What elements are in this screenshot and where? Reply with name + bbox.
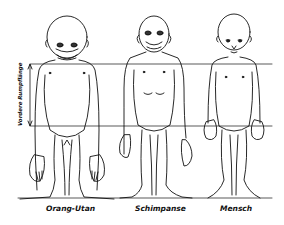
measurement-arrow xyxy=(28,64,32,126)
measure-label: Vordere Rumpflänge xyxy=(17,62,23,126)
label-schimpanse: Schimpanse xyxy=(135,204,186,213)
orang-utan-figure xyxy=(20,16,114,199)
figure-drawing xyxy=(0,0,284,225)
chimpanzee-figure xyxy=(120,16,193,198)
figure-canvas: Vordere Rumpflänge Orang-Utan Schimpanse… xyxy=(0,0,284,225)
human-figure xyxy=(204,14,264,198)
label-orang-utan: Orang-Utan xyxy=(46,204,95,213)
label-mensch: Mensch xyxy=(220,204,252,213)
